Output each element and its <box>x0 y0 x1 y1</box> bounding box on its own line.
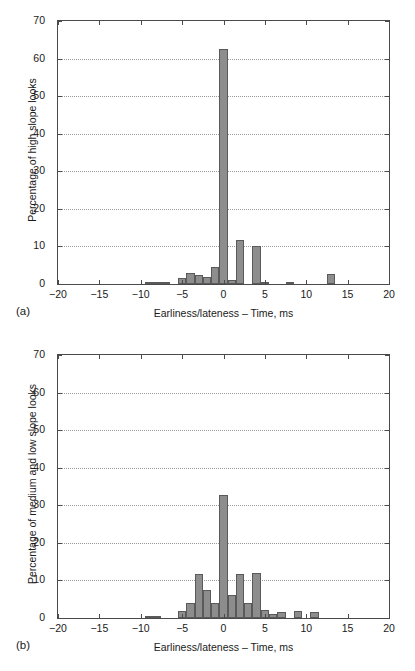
x-tick-mark <box>99 280 100 284</box>
y-axis-title-a: Percentage of high slope looks <box>26 18 38 283</box>
x-tick-label: 15 <box>342 623 354 634</box>
x-tick-mark <box>306 280 307 284</box>
histogram-bar <box>236 574 244 618</box>
x-tick-label: 20 <box>383 289 395 300</box>
x-tick-mark <box>348 21 349 25</box>
histogram-bar <box>310 612 318 618</box>
x-tick-label: 10 <box>300 289 312 300</box>
x-axis-title-a: Earliness/lateness – Time, ms <box>57 307 390 319</box>
x-tick-mark <box>224 614 225 618</box>
x-tick-label: −15 <box>90 289 108 300</box>
x-tick-label: 5 <box>262 623 268 634</box>
histogram-bar <box>252 573 260 618</box>
plot-area-b <box>57 354 390 619</box>
x-tick-mark <box>182 280 183 284</box>
y-tick-label: 0 <box>39 612 45 622</box>
y-tick-mark <box>385 134 389 135</box>
x-tick-label: −5 <box>176 623 188 634</box>
x-tick-mark <box>389 614 390 618</box>
x-tick-mark <box>141 614 142 618</box>
x-tick-mark <box>99 614 100 618</box>
x-tick-mark <box>306 355 307 359</box>
plot-area-a <box>57 20 390 285</box>
x-tick-mark <box>306 21 307 25</box>
x-tick-label: −20 <box>49 623 67 634</box>
histogram-bar <box>203 277 211 284</box>
y-tick-mark <box>385 96 389 97</box>
y-tick-mark <box>385 59 389 60</box>
chart-panel-a: 010203040506070 Percentage of high slope… <box>0 2 415 332</box>
x-tick-mark <box>389 280 390 284</box>
histogram-bar <box>186 603 194 618</box>
histogram-bar <box>145 282 153 284</box>
histogram-bar <box>153 282 161 284</box>
y-tick-mark <box>385 209 389 210</box>
x-tick-mark <box>265 614 266 618</box>
x-axis-tick-labels-a: −20−15−10−505101520 <box>57 289 390 303</box>
y-tick-mark <box>58 171 62 172</box>
x-tick-mark <box>182 21 183 25</box>
x-tick-label: −10 <box>132 623 150 634</box>
x-tick-mark <box>224 21 225 25</box>
y-tick-mark <box>385 171 389 172</box>
panel-caption-b: (b) <box>16 639 30 651</box>
y-tick-mark <box>58 284 62 285</box>
histogram-bar <box>195 275 203 284</box>
histogram-bar <box>211 603 219 618</box>
y-tick-mark <box>385 505 389 506</box>
histogram-bar <box>294 611 302 618</box>
y-tick-mark <box>385 393 389 394</box>
x-tick-mark <box>348 614 349 618</box>
histogram-bar <box>269 614 277 619</box>
x-tick-label: −15 <box>90 623 108 634</box>
x-tick-mark <box>99 355 100 359</box>
y-tick-mark <box>58 430 62 431</box>
histogram-bar <box>286 282 294 284</box>
y-tick-mark <box>58 618 62 619</box>
y-tick-mark <box>385 246 389 247</box>
histogram-bar <box>161 282 169 284</box>
y-tick-mark <box>385 430 389 431</box>
bars-b <box>58 355 389 618</box>
histogram-bar <box>145 616 153 618</box>
bars-a <box>58 21 389 284</box>
x-tick-mark <box>58 355 59 359</box>
chart-panel-b: 010203040506070 Percentage of medium and… <box>0 336 415 666</box>
y-tick-mark <box>385 284 389 285</box>
x-tick-mark <box>141 355 142 359</box>
y-tick-mark <box>58 543 62 544</box>
y-tick-mark <box>58 246 62 247</box>
x-tick-label: −10 <box>132 289 150 300</box>
x-tick-mark <box>141 21 142 25</box>
x-tick-mark <box>58 280 59 284</box>
y-axis-title-b: Percentage of medium and low slope looks <box>26 352 38 617</box>
x-tick-mark <box>182 355 183 359</box>
x-tick-mark <box>265 280 266 284</box>
x-tick-mark <box>58 614 59 618</box>
histogram-bar <box>327 274 335 284</box>
histogram-bar <box>244 603 252 618</box>
histogram-bar <box>236 240 244 284</box>
histogram-bar <box>203 590 211 618</box>
x-tick-mark <box>58 21 59 25</box>
x-axis-tick-labels-b: −20−15−10−505101520 <box>57 623 390 637</box>
x-tick-label: 15 <box>342 289 354 300</box>
x-tick-mark <box>348 355 349 359</box>
histogram-bar <box>252 246 260 284</box>
x-tick-label: 0 <box>221 623 227 634</box>
x-tick-label: −20 <box>49 289 67 300</box>
x-tick-mark <box>182 614 183 618</box>
histogram-bar <box>228 280 236 284</box>
y-tick-mark <box>58 96 62 97</box>
x-tick-label: −5 <box>176 289 188 300</box>
y-tick-mark <box>58 505 62 506</box>
x-tick-mark <box>389 355 390 359</box>
x-tick-mark <box>265 355 266 359</box>
x-tick-mark <box>348 280 349 284</box>
y-tick-mark <box>58 209 62 210</box>
histogram-bar <box>219 49 227 284</box>
x-tick-mark <box>99 21 100 25</box>
histogram-bar <box>277 612 285 618</box>
x-tick-mark <box>224 355 225 359</box>
histogram-bar <box>195 574 203 618</box>
